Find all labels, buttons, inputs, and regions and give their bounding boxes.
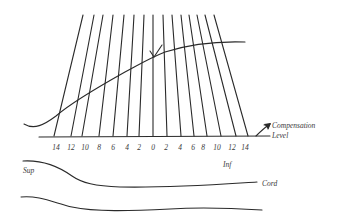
fan-line	[163, 15, 167, 136]
scale-tick-label: 2	[137, 144, 141, 152]
fan-line	[54, 15, 83, 136]
scale-tick-label: 12	[67, 144, 75, 152]
fan-line	[82, 15, 103, 136]
scale-tick-label: 10	[213, 144, 221, 152]
scale-tick-label: 14	[52, 144, 60, 152]
diagram-drawing	[0, 0, 343, 224]
fan-line	[127, 15, 134, 136]
scale-tick-label: 4	[125, 144, 129, 152]
diagram-canvas: 14 12 10 8 6 4 2 0 2 4 6 8 10 12 14 Comp…	[0, 0, 343, 224]
level-label: Level	[272, 132, 288, 140]
fan-line	[197, 15, 221, 136]
scale-tick-label: 0	[151, 144, 155, 152]
cord-label: Cord	[262, 180, 277, 188]
fan-line	[71, 15, 94, 136]
scale-tick-label: 8	[97, 144, 101, 152]
scale-tick-label: 8	[201, 144, 205, 152]
scale-tick-label: 4	[178, 144, 182, 152]
center-arrow-icon	[150, 45, 162, 57]
scale-tick-label: 14	[241, 144, 249, 152]
cord-lower-curve	[21, 197, 262, 211]
fan-line	[139, 15, 144, 136]
sigmoid-curve	[24, 42, 245, 127]
inf-label: Inf	[223, 161, 231, 169]
compensation-level-line	[39, 136, 270, 137]
scale-tick-label: 2	[164, 144, 168, 152]
cord-upper-curve	[23, 161, 257, 187]
compensation-label: Compensation	[272, 122, 315, 130]
scale-tick-label: 6	[111, 144, 115, 152]
scale-tick-label: 10	[81, 144, 89, 152]
scale-tick-label: 6	[191, 144, 195, 152]
fan-line	[99, 15, 113, 136]
sup-label: Sup	[23, 167, 34, 175]
fan-line	[172, 15, 181, 136]
scale-tick-label: 12	[228, 144, 236, 152]
